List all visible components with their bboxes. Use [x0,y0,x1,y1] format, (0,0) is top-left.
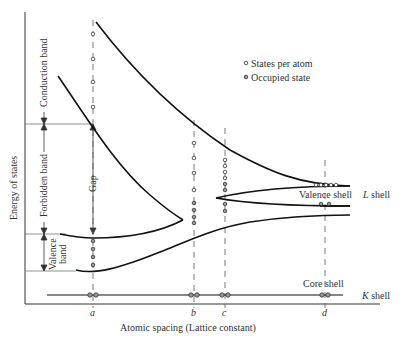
valence-shell-label: Valence shell [299,189,352,200]
forbidden-band-label: Forbidden band [38,154,49,217]
tick-c: c [222,307,227,318]
tick-d: d [322,307,328,318]
axes [25,12,380,304]
energy-band-diagram: States per atom Occupied state Energy of… [0,0,404,339]
valence-band-label-2: band [57,245,68,264]
l-shell-label: L shell [362,189,390,200]
core-shell-label: Core shell [303,278,344,289]
occupied-b [189,201,199,297]
gap-label: Gap [87,175,98,192]
legend-states: States per atom [251,58,313,69]
states-d [314,183,338,187]
legend-occupied: Occupied state [251,72,311,83]
filled-circle-icon [244,75,248,79]
tick-b: b [191,307,196,318]
x-axis-label: Atomic spacing (Lattice constant) [120,322,256,334]
k-shell-label: K shell [361,290,390,301]
open-circle-icon [244,61,248,65]
conduction-band-label: Conduction band [38,38,49,107]
states-c [223,158,227,180]
y-axis-label: Energy of states [8,156,19,220]
tick-a: a [90,307,95,318]
legend: States per atom Occupied state [244,58,313,83]
